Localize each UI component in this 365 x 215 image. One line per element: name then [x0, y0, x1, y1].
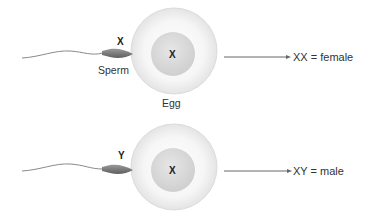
egg-chromosome-bottom: X [169, 165, 176, 176]
egg-label: Egg [162, 97, 181, 109]
arrow-top [224, 55, 291, 59]
sperm-top [22, 49, 133, 58]
result-top: XX = female [293, 51, 353, 63]
egg-chromosome-top: X [169, 49, 176, 60]
fertilization-diagram [0, 0, 365, 215]
sperm-chromosome-bottom: Y [118, 150, 125, 161]
sperm-bottom [22, 164, 133, 174]
result-bottom: XY = male [293, 165, 344, 177]
sperm-label: Sperm [98, 64, 129, 76]
arrow-bottom [224, 169, 292, 173]
sperm-chromosome-top: X [117, 36, 124, 47]
